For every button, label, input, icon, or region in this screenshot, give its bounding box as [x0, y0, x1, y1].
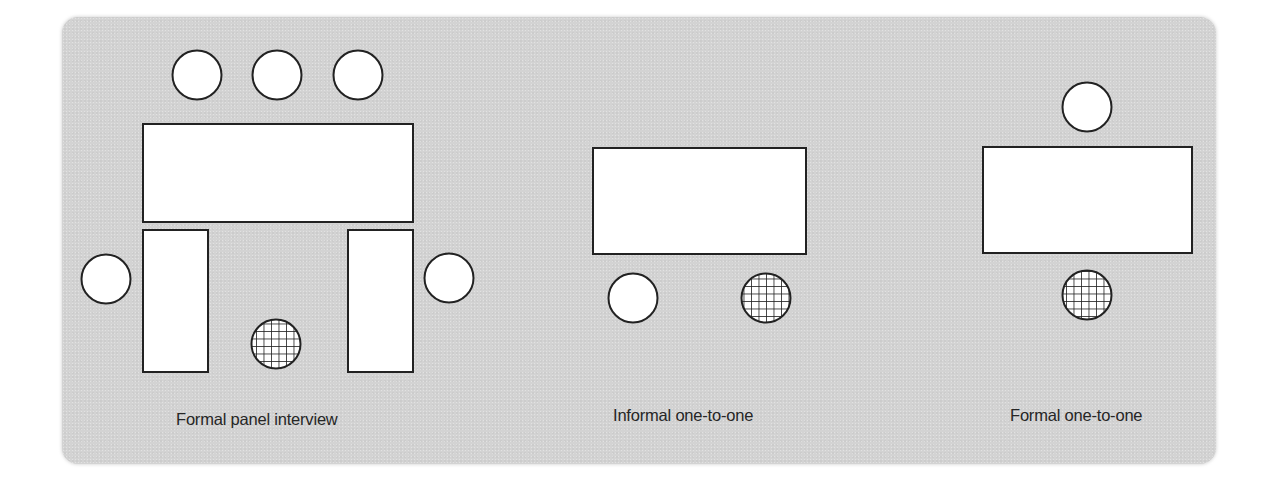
layout-formal-one-to-one — [983, 83, 1192, 320]
interviewer-seat-icon — [1063, 83, 1112, 132]
candidate-seat-icon — [1063, 271, 1112, 320]
right-side-table — [348, 230, 413, 372]
left-side-table — [143, 230, 208, 372]
layout-informal-one-to-one — [593, 148, 806, 323]
interviewer-seat-icon — [82, 255, 131, 304]
interviewer-seat-icon — [425, 254, 474, 303]
interviewer-seat-icon — [609, 274, 658, 323]
label-formal-panel-interview: Formal panel interview — [176, 410, 338, 429]
main-table — [143, 124, 413, 222]
layout-formal-panel-interview — [82, 51, 474, 373]
interviewer-seat-icon — [173, 51, 222, 100]
label-informal-one-to-one: Informal one-to-one — [613, 406, 753, 425]
candidate-seat-icon — [742, 274, 791, 323]
table — [593, 148, 806, 254]
candidate-seat-icon — [252, 320, 301, 369]
table — [983, 147, 1192, 253]
interviewer-seat-icon — [334, 51, 383, 100]
interviewer-seat-icon — [253, 51, 302, 100]
label-formal-one-to-one: Formal one-to-one — [1010, 406, 1142, 425]
